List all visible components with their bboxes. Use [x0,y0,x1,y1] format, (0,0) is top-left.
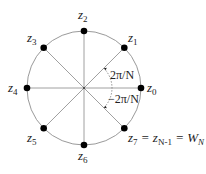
point-z3 [40,44,47,51]
label-z7-equation: z7 = zN-1 = WN [127,130,205,147]
point-z2 [81,28,88,35]
label-z1: z1 [127,30,138,47]
roots-of-unity-diagram: z2 z1 z3 z4 z0 z5 z6 z7 = zN-1 = WN 2π/N… [0,0,206,174]
label-angle-positive: 2π/N [110,68,134,82]
point-z0 [138,85,145,92]
point-z5 [40,125,47,132]
label-z2: z2 [77,7,88,24]
label-z5: z5 [26,130,37,147]
label-angle-negative: −2π/N [108,92,139,106]
label-z4: z4 [7,80,18,97]
label-z6: z6 [77,148,88,165]
point-z1 [121,44,128,51]
point-z7 [121,125,128,132]
origin-dot [83,87,85,89]
label-z3: z3 [26,30,37,47]
label-z0: z0 [146,80,157,97]
point-z4 [24,85,31,92]
